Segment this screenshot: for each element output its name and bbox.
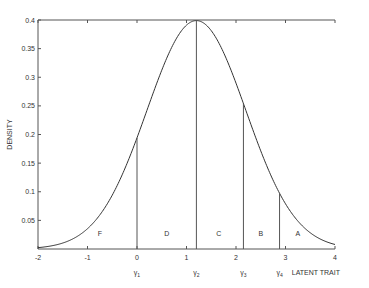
y-tick-label: 0.25 [21,102,35,109]
cutpoint-label: γ1 [134,269,141,278]
region-label: C [216,230,221,237]
y-tick-label: 0.15 [21,160,35,167]
cutpoint-label: γ2 [193,269,200,278]
x-tick-label: -1 [84,254,90,261]
density-curve [38,21,335,248]
y-tick-label: 0.35 [21,45,35,52]
y-tick-label: 0.3 [25,74,35,81]
y-axis-label: DENSITY [6,119,13,150]
y-tick-label: 0.2 [25,131,35,138]
region-label: B [258,230,263,237]
y-tick-label: 0.4 [25,17,35,24]
x-tick-label: 0 [135,254,139,261]
region-label: A [296,230,301,237]
density-chart: -2-1012340.050.10.150.20.250.30.350.4γ1γ… [0,0,369,288]
region-label: F [98,230,102,237]
x-axis-label: LATENT TRAIT [292,269,341,276]
cutpoint-label: γ3 [240,269,247,278]
x-tick-label: 1 [185,254,189,261]
y-tick-label: 0.1 [25,188,35,195]
x-tick-label: 4 [333,254,337,261]
x-tick-label: -2 [35,254,41,261]
cutpoint-label: γ4 [276,269,283,278]
x-tick-label: 3 [284,254,288,261]
y-tick-label: 0.05 [21,217,35,224]
region-label: D [164,230,169,237]
x-tick-label: 2 [234,254,238,261]
